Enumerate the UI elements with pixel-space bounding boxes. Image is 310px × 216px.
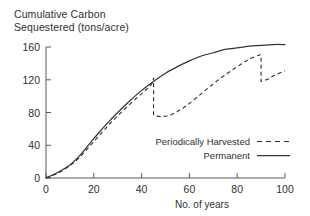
legend-label-periodically-harvested: Periodically Harvested — [155, 136, 250, 147]
x-tick-label-60: 60 — [184, 183, 196, 195]
legend-label-permanent: Permanent — [204, 150, 251, 161]
x-tick-label-40: 40 — [136, 183, 148, 195]
y-axis: 160 120 80 40 0 — [22, 41, 51, 184]
chart-legend: Periodically Harvested Permanent — [155, 136, 290, 161]
x-tick-label-80: 80 — [231, 183, 243, 195]
y-tick-label-0: 0 — [34, 172, 40, 184]
y-tick-label-160: 160 — [22, 41, 40, 53]
chart-plot-area: 160 120 80 40 0 0 20 40 60 80 100 No. of… — [0, 0, 310, 216]
y-tick-label-120: 120 — [22, 74, 40, 86]
x-tick-label-20: 20 — [88, 183, 100, 195]
x-tick-label-0: 0 — [43, 183, 49, 195]
y-tick-label-80: 80 — [28, 107, 40, 119]
y-tick-label-40: 40 — [28, 139, 40, 151]
chart-figure: Cumulative Carbon Sequestered (tons/acre… — [0, 0, 310, 216]
x-axis-caption: No. of years — [175, 199, 229, 210]
x-axis: 0 20 40 60 80 100 No. of years — [43, 173, 294, 210]
x-tick-label-100: 100 — [276, 183, 294, 195]
